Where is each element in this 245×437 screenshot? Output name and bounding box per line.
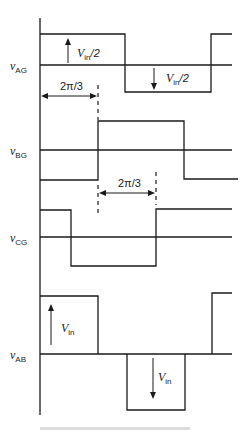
arrow-head-down-icon — [151, 83, 157, 90]
vcg-label: vCG — [10, 231, 27, 247]
vag-label: vAG — [10, 59, 27, 75]
arrow-head-left-icon — [99, 190, 106, 196]
phase-label-1: 2π/3 — [60, 80, 83, 92]
waveform-diagram: vAG Vin/2 Vin/2 2π/3 vBG 2π/3 vCG — [0, 0, 245, 437]
phase-marker-2: 2π/3 — [98, 172, 156, 215]
vab-negative-pulse — [127, 354, 185, 410]
vag-down-label: Vin/2 — [166, 71, 189, 87]
vab-positive-pulse — [40, 296, 98, 354]
vab-label: vAB — [10, 348, 26, 364]
signal-vag: vAG Vin/2 Vin/2 — [10, 34, 232, 92]
arrow-head-down-icon — [150, 392, 156, 399]
phase-marker-1: 2π/3 — [41, 80, 98, 120]
arrow-head-right-icon — [148, 190, 155, 196]
vab-down-label: Vin — [158, 370, 172, 386]
vab-up-label: Vin — [61, 321, 75, 337]
signal-vbg: vBG — [10, 121, 238, 180]
vab-positive-pulse-2 — [212, 293, 232, 354]
phase-label-2: 2π/3 — [118, 177, 141, 189]
signal-vab: vAB Vin Vin — [10, 293, 232, 410]
vbg-label: vBG — [10, 144, 27, 160]
cropped-caption-remnant — [40, 427, 190, 430]
arrow-head-left-icon — [41, 93, 48, 99]
arrow-head-up-icon — [48, 304, 54, 311]
vag-up-label: Vin/2 — [77, 46, 100, 62]
arrow-head-right-icon — [90, 93, 97, 99]
arrow-head-up-icon — [65, 38, 71, 45]
signal-vcg: vCG — [10, 209, 232, 266]
